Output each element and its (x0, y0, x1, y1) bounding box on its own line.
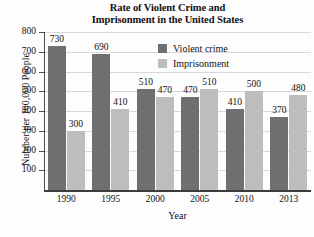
legend-item-imprisonment: Imprisonment (158, 56, 229, 71)
bar-violent-crime-2010 (226, 109, 244, 190)
x-axis-tick-label-2005: 2005 (178, 194, 223, 204)
y-axis-tick-label: 400 (0, 105, 36, 115)
x-axis-tick-label-1995: 1995 (89, 194, 134, 204)
y-axis-tick-label: 800 (0, 26, 36, 36)
x-axis-line (44, 190, 311, 192)
y-axis-tick-label: 600 (0, 66, 36, 76)
gridline (44, 32, 311, 33)
bar-imprisonment-2005 (200, 89, 218, 190)
bar-value-label: 300 (61, 119, 91, 129)
y-axis-tick-label: 200 (0, 145, 36, 155)
bar-violent-crime-2013 (270, 117, 288, 190)
bar-value-label: 370 (264, 105, 294, 115)
y-axis-tick (39, 170, 44, 171)
y-axis-tick (39, 131, 44, 132)
x-axis-tick-label-2013: 2013 (267, 194, 312, 204)
bar-value-label: 730 (42, 34, 72, 44)
bar-chart-figure: Rate of Violent Crime and Imprisonment i… (0, 0, 314, 237)
y-axis-tick-label: 700 (0, 46, 36, 56)
y-axis-tick-label: 500 (0, 85, 36, 95)
y-axis-line (44, 32, 45, 191)
bar-imprisonment-1995 (111, 109, 129, 190)
bar-value-label: 410 (105, 97, 135, 107)
y-axis-tick (39, 151, 44, 152)
y-axis-tick (39, 91, 44, 92)
bar-imprisonment-1990 (67, 131, 85, 190)
x-axis-tick-label-1990: 1990 (44, 194, 89, 204)
bar-value-label: 500 (239, 79, 269, 89)
chart-title-line-2: Imprisonment in the United States (60, 14, 275, 26)
legend-label-imprisonment: Imprisonment (173, 58, 229, 69)
bar-value-label: 510 (194, 77, 224, 87)
bar-imprisonment-2000 (156, 97, 174, 190)
y-axis-tick (39, 111, 44, 112)
legend-label-violent-crime: Violent crime (173, 43, 228, 54)
x-axis-tick-label-2000: 2000 (133, 194, 178, 204)
bar-value-label: 690 (86, 42, 116, 52)
bar-violent-crime-1995 (92, 54, 110, 190)
bar-violent-crime-2005 (181, 97, 199, 190)
y-axis-tick (39, 72, 44, 73)
chart-legend: Violent crime Imprisonment (158, 41, 229, 71)
bar-violent-crime-2000 (137, 89, 155, 190)
legend-item-violent-crime: Violent crime (158, 41, 229, 56)
chart-title-line-1: Rate of Violent Crime and (60, 2, 275, 14)
y-axis-tick-label: 100 (0, 164, 36, 174)
y-axis-tick (39, 52, 44, 53)
bar-value-label: 480 (283, 83, 313, 93)
legend-swatch-imprisonment (158, 59, 167, 68)
legend-swatch-violent-crime (158, 44, 167, 53)
bar-value-label: 410 (220, 97, 250, 107)
x-axis-label: Year (44, 210, 311, 221)
x-axis-tick-label-2010: 2010 (222, 194, 267, 204)
gridline (44, 72, 311, 73)
y-axis-tick-label: 300 (0, 125, 36, 135)
chart-title: Rate of Violent Crime and Imprisonment i… (60, 2, 275, 25)
